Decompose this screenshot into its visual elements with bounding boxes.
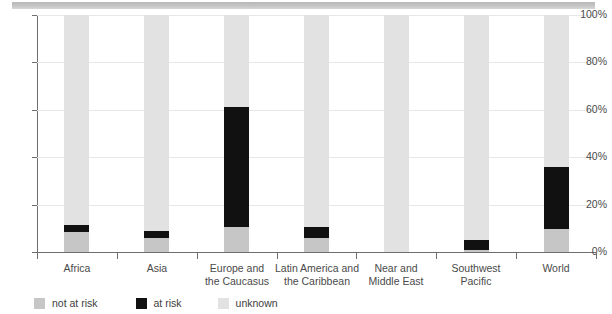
legend-label: unknown bbox=[236, 297, 278, 309]
legend: not at riskat riskunknown bbox=[34, 297, 278, 309]
bar-column bbox=[464, 15, 489, 252]
top-banner bbox=[12, 2, 595, 9]
legend-item-at-risk[interactable]: at risk bbox=[136, 297, 182, 309]
bar-segment-unknown bbox=[464, 15, 489, 240]
x-tick-mark bbox=[356, 253, 357, 259]
bar-segment-unknown bbox=[64, 15, 89, 225]
x-tick-mark bbox=[596, 253, 597, 259]
bar-segment-unknown bbox=[304, 15, 329, 227]
y-axis-line bbox=[37, 15, 38, 253]
legend-swatch-icon bbox=[34, 298, 45, 309]
x-tick-mark bbox=[197, 253, 198, 259]
bar-segment-at-risk bbox=[304, 227, 329, 238]
bar-segment-not-at-risk bbox=[64, 232, 89, 252]
y-tick-mark bbox=[32, 62, 37, 63]
x-tick-mark bbox=[117, 253, 118, 259]
bar-column bbox=[144, 15, 169, 252]
y-tick-label: 60% bbox=[577, 104, 607, 115]
legend-label: at risk bbox=[154, 297, 182, 309]
bar-segment-at-risk bbox=[464, 240, 489, 250]
y-tick-label: 100% bbox=[577, 9, 607, 20]
legend-item-unknown[interactable]: unknown bbox=[218, 297, 278, 309]
bar-column bbox=[384, 15, 409, 252]
y-tick-mark bbox=[32, 110, 37, 111]
bar-column bbox=[64, 15, 89, 252]
bar-column bbox=[544, 15, 569, 252]
bar-segment-at-risk bbox=[144, 231, 169, 238]
bar-segment-not-at-risk bbox=[144, 238, 169, 252]
y-tick-label: 40% bbox=[577, 151, 607, 162]
legend-swatch-icon bbox=[218, 298, 229, 309]
bar-segment-unknown bbox=[544, 15, 569, 167]
y-tick-mark bbox=[32, 15, 37, 16]
x-tick-mark bbox=[436, 253, 437, 259]
y-tick-mark bbox=[32, 157, 37, 158]
x-category-label-line: Pacific bbox=[416, 275, 536, 288]
bar-segment-not-at-risk bbox=[544, 229, 569, 252]
bar-segment-unknown bbox=[384, 15, 409, 252]
legend-label: not at risk bbox=[52, 297, 98, 309]
x-tick-mark bbox=[37, 253, 38, 259]
y-tick-label: 80% bbox=[577, 56, 607, 67]
bar-segment-unknown bbox=[144, 15, 169, 231]
legend-swatch-icon bbox=[136, 298, 147, 309]
bar-column bbox=[304, 15, 329, 252]
bar-segment-not-at-risk bbox=[224, 227, 249, 252]
bar-column bbox=[224, 15, 249, 252]
bar-segment-at-risk bbox=[544, 167, 569, 229]
bar-segment-not-at-risk bbox=[304, 238, 329, 252]
x-category-label: World bbox=[496, 262, 612, 275]
x-axis-line bbox=[37, 252, 596, 253]
x-tick-mark bbox=[277, 253, 278, 259]
legend-item-not-at-risk[interactable]: not at risk bbox=[34, 297, 98, 309]
bar-segment-at-risk bbox=[224, 107, 249, 227]
y-tick-mark bbox=[32, 205, 37, 206]
x-tick-mark bbox=[516, 253, 517, 259]
bar-segment-at-risk bbox=[64, 225, 89, 232]
bar-segment-not-at-risk bbox=[464, 250, 489, 252]
bar-segment-unknown bbox=[224, 15, 249, 107]
x-category-label-line: World bbox=[496, 262, 612, 275]
y-tick-label: 20% bbox=[577, 199, 607, 210]
y-tick-label: 0% bbox=[577, 246, 607, 257]
